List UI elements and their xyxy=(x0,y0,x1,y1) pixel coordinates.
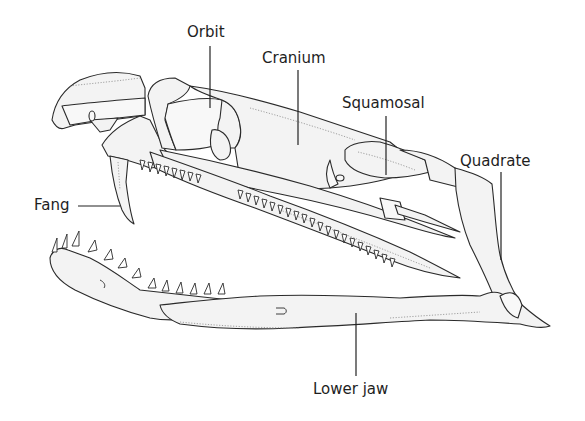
label-cranium: Cranium xyxy=(262,51,326,66)
label-orbit: Orbit xyxy=(187,25,225,40)
label-squamosal: Squamosal xyxy=(342,96,425,111)
orbit-region xyxy=(148,78,241,160)
label-fang: Fang xyxy=(34,198,69,213)
label-quadrate: Quadrate xyxy=(460,154,531,169)
label-lower-jaw: Lower jaw xyxy=(313,382,388,397)
